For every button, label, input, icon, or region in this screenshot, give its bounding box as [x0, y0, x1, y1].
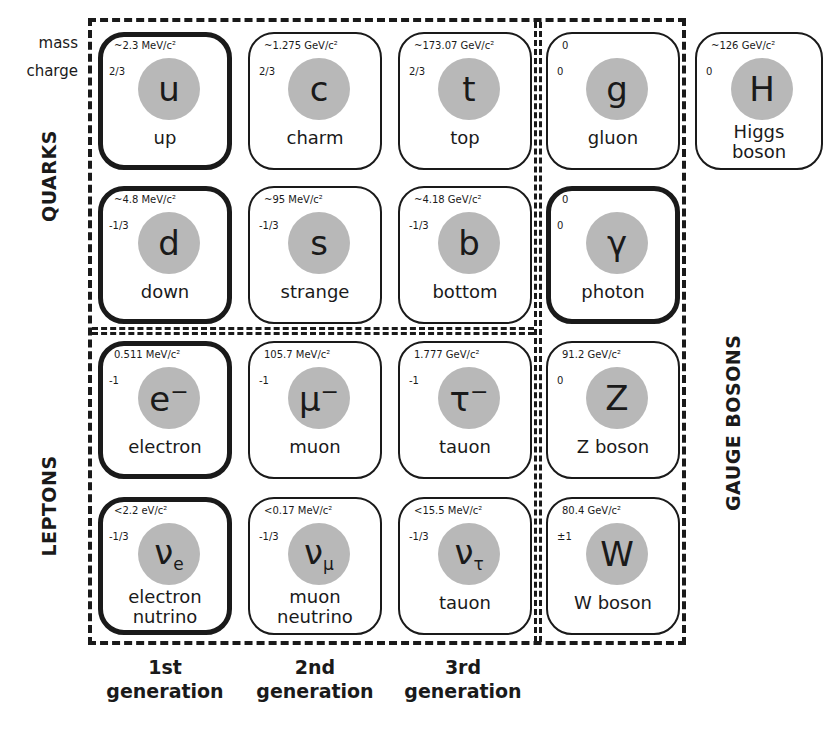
particle-symbol: νμ — [304, 535, 334, 573]
symbol-sup: − — [170, 379, 188, 404]
particle-symbol: t — [462, 72, 475, 106]
charge-value: -1/3 — [409, 531, 429, 542]
mass-value: <0.17 MeV/c² — [264, 505, 332, 516]
mass-value: ~1.275 GeV/c² — [264, 40, 338, 51]
particle-card-up[interactable]: ~2.3 MeV/c² 2/3 u up — [98, 32, 232, 170]
particle-name: Z boson — [548, 437, 678, 457]
symbol-base: τ — [450, 379, 470, 419]
particle-name: strange — [250, 282, 380, 302]
charge-value: -1/3 — [109, 531, 129, 542]
mass-value: ~173.07 GeV/c² — [414, 40, 494, 51]
mass-value: ~126 GeV/c² — [711, 40, 775, 51]
particle-card-down[interactable]: ~4.8 MeV/c² -1/3 d down — [98, 186, 232, 324]
particle-symbol: c — [310, 72, 329, 106]
charge-value: 0 — [557, 66, 563, 77]
particle-symbol: b — [458, 226, 480, 260]
charge-value: -1/3 — [109, 220, 129, 231]
generation-label-3: 3rd generation — [393, 655, 533, 703]
quark-lepton-separator — [92, 327, 534, 335]
leptons-group-label: LEPTONS — [38, 441, 60, 571]
particle-card-muon-neutrino[interactable]: <0.17 MeV/c² -1/3 νμ muon neutrino — [248, 497, 382, 635]
mass-value: ~4.18 GeV/c² — [414, 194, 481, 205]
particle-name: tauon — [400, 437, 530, 457]
symbol-sup: − — [321, 379, 339, 404]
charge-value: -1/3 — [259, 531, 279, 542]
symbol-sup: − — [470, 379, 488, 404]
charge-value: -1 — [259, 375, 269, 386]
particle-symbol: s — [310, 226, 328, 260]
particle-card-tau-neutrino[interactable]: <15.5 MeV/c² -1/3 ντ tauon — [398, 497, 532, 635]
symbol-base: e — [149, 379, 170, 419]
particle-ball-icon: W — [586, 523, 648, 585]
gauge-bosons-group-label: GAUGE BOSONS — [722, 351, 744, 511]
particle-symbol: W — [600, 537, 634, 571]
particle-ball-icon: νe — [138, 523, 200, 585]
mass-value: ~95 MeV/c² — [264, 194, 323, 205]
particle-symbol: H — [749, 72, 775, 106]
particle-card-bottom[interactable]: ~4.18 GeV/c² -1/3 b bottom — [398, 186, 532, 324]
mass-value: <2.2 eV/c² — [114, 505, 167, 516]
particle-symbol: νe — [154, 535, 183, 573]
generation-ordinal: 3rd — [393, 655, 533, 679]
particle-card-higgs[interactable]: ~126 GeV/c² 0 H Higgs boson — [695, 32, 823, 170]
particle-name: gluon — [548, 128, 678, 148]
particle-symbol: g — [606, 72, 628, 106]
mass-value: 80.4 GeV/c² — [562, 505, 621, 516]
fermion-boson-separator — [534, 22, 542, 642]
charge-value: 2/3 — [409, 66, 425, 77]
particle-ball-icon: t — [438, 58, 500, 120]
generation-word: generation — [393, 679, 533, 703]
particle-card-charm[interactable]: ~1.275 GeV/c² 2/3 c charm — [248, 32, 382, 170]
particle-ball-icon: γ — [586, 212, 648, 274]
particle-card-photon[interactable]: 0 0 γ photon — [546, 186, 680, 324]
particle-name: electron — [103, 437, 227, 457]
mass-value: 1.777 GeV/c² — [414, 349, 479, 360]
particle-card-top[interactable]: ~173.07 GeV/c² 2/3 t top — [398, 32, 532, 170]
particle-ball-icon: b — [438, 212, 500, 274]
mass-value: ~2.3 MeV/c² — [114, 40, 176, 51]
particle-symbol: ντ — [454, 535, 483, 573]
particle-ball-icon: τ− — [438, 367, 500, 429]
generation-label-2: 2nd generation — [245, 655, 385, 703]
particle-card-electron-neutrino[interactable]: <2.2 eV/c² -1/3 νe electron nutrino — [98, 497, 232, 635]
particle-card-w-boson[interactable]: 80.4 GeV/c² ±1 W W boson — [546, 497, 680, 635]
particle-card-electron[interactable]: 0.511 MeV/c² -1 e− electron — [98, 341, 232, 479]
particle-ball-icon: ντ — [438, 523, 500, 585]
particle-card-z-boson[interactable]: 91.2 GeV/c² 0 Z Z boson — [546, 341, 680, 479]
particle-ball-icon: c — [288, 58, 350, 120]
particle-symbol: Z — [605, 381, 628, 415]
symbol-base: μ — [299, 379, 321, 419]
quarks-group-label: QUARKS — [38, 111, 60, 241]
generation-ordinal: 2nd — [245, 655, 385, 679]
mass-value: ~4.8 MeV/c² — [114, 194, 176, 205]
symbol-sub: μ — [323, 554, 334, 574]
particle-ball-icon: u — [138, 58, 200, 120]
particle-ball-icon: H — [731, 58, 793, 120]
generation-label-1: 1st generation — [95, 655, 235, 703]
particle-card-muon[interactable]: 105.7 MeV/c² -1 μ− muon — [248, 341, 382, 479]
charge-legend-label: charge — [8, 62, 78, 80]
generation-word: generation — [245, 679, 385, 703]
particle-card-tauon[interactable]: 1.777 GeV/c² -1 τ− tauon — [398, 341, 532, 479]
particle-ball-icon: e− — [138, 367, 200, 429]
particle-name: W boson — [548, 593, 678, 613]
symbol-base: ν — [454, 532, 473, 572]
particle-card-gluon[interactable]: 0 0 g gluon — [546, 32, 680, 170]
mass-value: 0 — [562, 40, 568, 51]
particle-name: down — [103, 282, 227, 302]
particle-symbol: γ — [607, 226, 627, 260]
symbol-base: ν — [304, 532, 323, 572]
particle-ball-icon: μ− — [288, 367, 350, 429]
particle-ball-icon: s — [288, 212, 350, 274]
particle-ball-icon: νμ — [288, 523, 350, 585]
mass-value: 0.511 MeV/c² — [114, 349, 180, 360]
particle-name: photon — [551, 282, 675, 302]
particle-symbol: d — [158, 226, 180, 260]
charge-value: 2/3 — [109, 66, 125, 77]
particle-name: muon — [250, 437, 380, 457]
particle-card-strange[interactable]: ~95 MeV/c² -1/3 s strange — [248, 186, 382, 324]
charge-value: -1/3 — [409, 220, 429, 231]
particle-ball-icon: d — [138, 212, 200, 274]
mass-value: 0 — [562, 194, 568, 205]
symbol-sub: τ — [473, 554, 483, 574]
